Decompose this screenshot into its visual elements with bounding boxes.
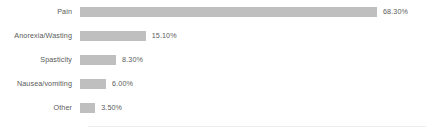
category-label: Other — [0, 103, 80, 113]
category-label: Pain — [0, 7, 80, 17]
bar-spasticity[interactable] — [80, 55, 116, 65]
category-label: Spasticity — [0, 55, 80, 65]
bar-track: 15.10% — [80, 24, 430, 48]
bar-track: 3.50% — [80, 96, 430, 120]
category-label: Anorexia/Wasting — [0, 31, 80, 41]
bar-anorexia-wasting[interactable] — [80, 31, 146, 41]
bar-row[interactable]: Nausea/vomiting 6.00% — [0, 72, 430, 96]
x-axis-line — [88, 126, 426, 127]
bar-row[interactable]: Pain 68.30% — [0, 0, 430, 24]
bar-value-label: 8.30% — [122, 55, 143, 65]
bar-pain[interactable] — [80, 7, 377, 17]
bar-chart: Pain 68.30% Anorexia/Wasting 15.10% Spas… — [0, 0, 430, 132]
bar-track: 68.30% — [80, 0, 430, 24]
bar-value-label: 6.00% — [112, 79, 133, 89]
bar-row[interactable]: Spasticity 8.30% — [0, 48, 430, 72]
bar-row[interactable]: Anorexia/Wasting 15.10% — [0, 24, 430, 48]
plot-area: Pain 68.30% Anorexia/Wasting 15.10% Spas… — [0, 0, 430, 132]
bar-value-label: 15.10% — [152, 31, 177, 41]
category-label: Nausea/vomiting — [0, 79, 80, 89]
bar-value-label: 3.50% — [101, 103, 122, 113]
bar-row[interactable]: Other 3.50% — [0, 96, 430, 120]
bar-nausea-vomiting[interactable] — [80, 79, 106, 89]
bar-track: 6.00% — [80, 72, 430, 96]
bar-other[interactable] — [80, 103, 95, 113]
bar-value-label: 68.30% — [383, 7, 408, 17]
bar-track: 8.30% — [80, 48, 430, 72]
